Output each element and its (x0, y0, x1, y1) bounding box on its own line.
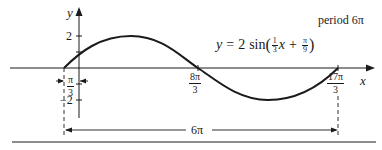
eq-plus: + (289, 37, 297, 53)
marker-num: π (67, 75, 74, 87)
eq-frac1-den: 3 (273, 46, 277, 54)
eq-coef: 2 (238, 37, 245, 53)
equation-label: y = 2 sin ( 1 3 x + π 9 ) (216, 36, 314, 54)
x-marker-pi-over-3: π 3 (67, 75, 74, 98)
period-dimension-label: 6π (191, 124, 203, 136)
x-axis-arrow-icon (366, 65, 375, 72)
eq-var: x (279, 37, 285, 53)
period-label: period 6π (318, 14, 364, 26)
marker-den: 3 (333, 84, 338, 95)
marker-num: 17π (327, 72, 344, 84)
x-marker-17pi-over-3: 17π 3 (327, 72, 344, 95)
y-tick-label-2: 2 (66, 30, 72, 42)
x-marker-8pi-over-3: 8π 3 (189, 72, 201, 95)
marker-den: 3 (68, 87, 73, 98)
eq-open-paren: ( (265, 36, 270, 54)
eq-frac-2: π 9 (302, 37, 308, 54)
eq-frac2-den: 9 (303, 46, 307, 54)
marker-den: 3 (193, 84, 198, 95)
eq-lhs: y (216, 37, 222, 53)
eq-frac-1: 1 3 (272, 37, 278, 54)
eq-close-paren: ) (309, 36, 314, 54)
marker-num: 8π (189, 72, 201, 84)
x-axis-label: x (360, 74, 366, 87)
eq-equals: = (226, 37, 234, 53)
y-axis-arrow-icon (76, 7, 83, 16)
y-axis (76, 7, 83, 118)
eq-func: sin (249, 37, 265, 53)
y-axis-label: y (67, 6, 73, 19)
